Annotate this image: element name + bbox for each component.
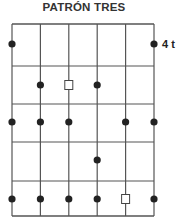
note-dot-icon bbox=[37, 118, 44, 125]
note-dot-icon bbox=[150, 40, 157, 47]
note-dot-icon bbox=[65, 118, 72, 125]
root-note-square-icon bbox=[65, 81, 73, 90]
note-dot-icon bbox=[150, 118, 157, 125]
note-dot-icon bbox=[94, 156, 101, 163]
note-dot-icon bbox=[37, 81, 44, 88]
note-dot-icon bbox=[8, 118, 15, 125]
note-dot-icon bbox=[8, 195, 15, 202]
note-dot-icon bbox=[8, 40, 15, 47]
note-dot-icon bbox=[150, 195, 157, 202]
scale-pattern-diagram bbox=[0, 0, 179, 221]
note-dot-icon bbox=[65, 195, 72, 202]
note-dot-icon bbox=[37, 195, 44, 202]
note-dot-icon bbox=[122, 118, 129, 125]
root-note-square-icon bbox=[122, 195, 130, 204]
note-dot-icon bbox=[94, 81, 101, 88]
note-dot-icon bbox=[94, 195, 101, 202]
